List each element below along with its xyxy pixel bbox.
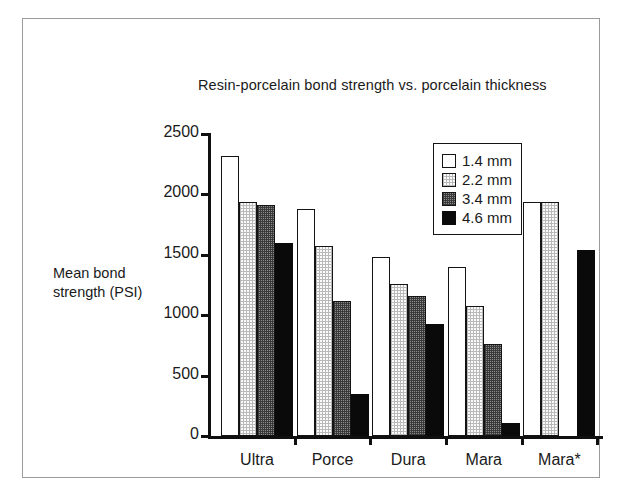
x-category-label: Mara*: [503, 450, 615, 470]
legend: 1.4 mm2.2 mm3.4 mm4.6 mm: [433, 143, 522, 235]
y-axis-title-line-2: strength (PSI): [53, 283, 183, 302]
y-tick-mark: [201, 314, 211, 317]
bar: [221, 156, 239, 436]
bar: [390, 284, 408, 436]
bar: [372, 257, 390, 436]
x-tick-mark: [369, 436, 372, 445]
x-tick-mark: [596, 436, 599, 445]
bar-group: [523, 134, 595, 436]
bar: [275, 243, 293, 436]
legend-label: 4.6 mm: [462, 209, 512, 226]
y-tick-label: 0: [190, 425, 199, 443]
bar: [315, 246, 333, 436]
legend-label: 1.4 mm: [462, 152, 512, 169]
y-tick-mark: [201, 375, 211, 378]
bar-group: [221, 134, 293, 436]
legend-label: 3.4 mm: [462, 190, 512, 207]
legend-swatch: [442, 192, 456, 206]
bar: [333, 301, 351, 436]
y-tick-label: 1500: [163, 244, 199, 262]
legend-item: 1.4 mm: [442, 151, 512, 170]
x-tick-mark: [521, 436, 524, 445]
figure-frame: Resin-porcelain bond strength vs. porcel…: [22, 18, 600, 478]
y-tick-mark: [201, 435, 211, 438]
legend-swatch: [442, 154, 456, 168]
bar: [523, 202, 541, 436]
bar: [297, 209, 315, 436]
y-tick-label: 2500: [163, 123, 199, 141]
x-axis-line: [208, 436, 603, 439]
y-tick-label: 500: [172, 365, 199, 383]
bar: [426, 324, 444, 436]
legend-item: 4.6 mm: [442, 208, 512, 227]
legend-item: 3.4 mm: [442, 189, 512, 208]
bar: [577, 250, 595, 436]
y-tick-mark: [201, 254, 211, 257]
bar: [239, 202, 257, 436]
chart-title: Resin-porcelain bond strength vs. porcel…: [198, 76, 618, 94]
legend-swatch: [442, 211, 456, 225]
y-tick-label: 1000: [163, 304, 199, 322]
y-tick-mark: [201, 133, 211, 136]
bar: [484, 344, 502, 436]
bar: [502, 423, 520, 436]
x-tick-mark: [445, 436, 448, 445]
y-axis-line: [208, 133, 211, 437]
bar: [408, 296, 426, 436]
y-axis-title: Mean bond strength (PSI): [53, 264, 183, 302]
x-tick-mark: [294, 436, 297, 445]
y-tick-label: 2000: [163, 183, 199, 201]
legend-item: 2.2 mm: [442, 170, 512, 189]
bar: [257, 205, 275, 436]
plot-area: 05001000150020002500 UltraPorceDuraMaraM…: [213, 134, 603, 436]
legend-swatch: [442, 173, 456, 187]
bar: [466, 306, 484, 436]
bar-group: [297, 134, 369, 436]
y-tick-mark: [201, 193, 211, 196]
bar: [541, 202, 559, 436]
y-axis-title-line-1: Mean bond: [53, 264, 183, 283]
bar: [448, 267, 466, 436]
legend-label: 2.2 mm: [462, 171, 512, 188]
bar: [351, 394, 369, 436]
